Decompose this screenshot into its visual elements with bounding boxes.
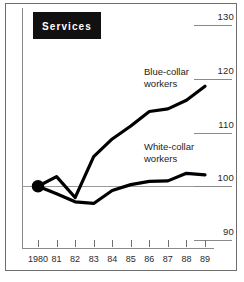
white-collar-label-line2: workers [144,153,194,165]
x-axis-labels: 1980818283848586878889 [22,251,214,267]
x-tick-mark [149,240,150,247]
x-tick-mark [131,240,132,247]
series-lines [22,8,214,238]
y-tick-rule [194,240,232,241]
x-tick-mark [75,240,76,247]
blue-collar-label-line2: workers [144,78,189,90]
x-tick-label: 88 [181,254,191,264]
white-collar-label-line1: White-collar [144,141,194,153]
x-tick-mark [168,240,169,247]
chart-title-label: Services [42,21,92,32]
x-tick-mark [112,240,113,247]
blue-collar-label-line1: Blue-collar [144,66,189,78]
services-index-line-chart: 13012011010090 Services Blue-collar work… [0,0,244,282]
x-tick-mark [205,240,206,247]
x-tick-label: 83 [89,254,99,264]
x-tick-label: 89 [200,254,210,264]
x-tick-mark [38,240,39,247]
chart-title-chip: Services [33,12,101,39]
x-tick-mark [57,240,58,247]
x-axis-line [22,248,214,249]
plot-area [22,8,214,238]
x-tick-label: 85 [126,254,136,264]
origin-marker-dot [32,180,44,192]
x-tick-label: 82 [70,254,80,264]
x-tick-mark [94,240,95,247]
x-tick-label: 1980 [28,254,48,264]
x-tick-mark [186,240,187,247]
x-tick-label: 81 [52,254,62,264]
series-line [38,173,205,203]
blue-collar-annotation: Blue-collar workers [144,66,189,89]
x-tick-label: 86 [144,254,154,264]
x-tick-label: 84 [107,254,117,264]
x-tick-label: 87 [163,254,173,264]
white-collar-annotation: White-collar workers [144,141,194,164]
